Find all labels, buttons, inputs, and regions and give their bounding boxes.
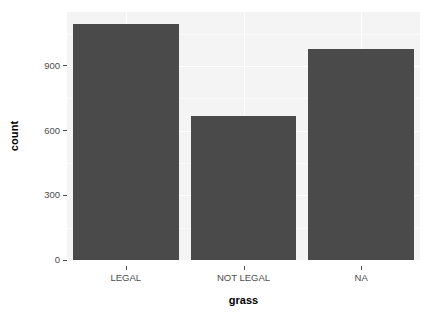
y-axis-title-label: count xyxy=(8,121,20,151)
bar xyxy=(73,24,179,260)
y-axis-tick: 900 xyxy=(44,59,67,73)
x-axis-tick-label: NOT LEGAL xyxy=(217,272,270,283)
bar xyxy=(308,49,414,260)
x-axis-title: grass xyxy=(67,294,420,306)
y-axis-tick: 0 xyxy=(55,253,67,267)
y-axis-tick-label: 0 xyxy=(55,253,60,267)
y-axis: 0300600900 xyxy=(28,0,67,331)
plot-panel xyxy=(67,12,420,260)
y-axis-tick-label: 600 xyxy=(44,124,60,138)
y-axis-tick-label: 900 xyxy=(44,59,60,73)
x-axis-tick-mark xyxy=(126,266,127,270)
x-axis-tick-label: LEGAL xyxy=(110,272,141,283)
bar xyxy=(191,116,297,261)
y-axis-title: count xyxy=(0,0,28,272)
x-axis-tick-label: NA xyxy=(355,272,368,283)
y-axis-tick: 300 xyxy=(44,188,67,202)
x-axis-title-label: grass xyxy=(229,294,258,306)
x-axis-tick-mark xyxy=(244,266,245,270)
y-axis-tick: 600 xyxy=(44,124,67,138)
bar-chart-figure: count 0300600900 LEGALNOT LEGALNA grass xyxy=(0,0,438,331)
y-axis-tick-label: 300 xyxy=(44,188,60,202)
x-axis-tick-mark xyxy=(361,266,362,270)
